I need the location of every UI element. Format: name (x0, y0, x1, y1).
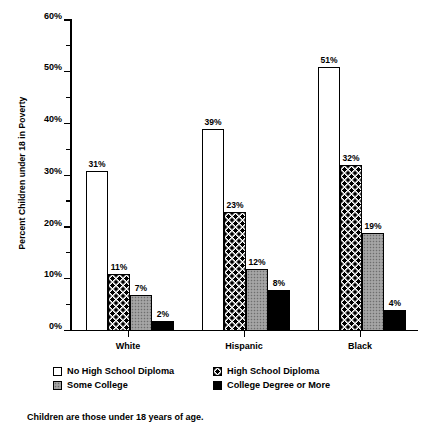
legend-row: No High School Diploma High School Diplo… (53, 364, 413, 378)
legend-item-some-college: Some College (53, 380, 213, 390)
bar (130, 295, 152, 331)
bar (384, 310, 406, 331)
y-axis-minor-tick (66, 304, 70, 305)
x-axis-tick (360, 330, 361, 337)
legend-item-college-degree-or-more: College Degree or More (213, 380, 330, 390)
bar (362, 233, 384, 331)
bar (318, 67, 340, 331)
y-axis-minor-tick (66, 252, 70, 253)
bar-value-label: 12% (248, 257, 265, 267)
chart-legend: No High School Diploma High School Diplo… (53, 364, 413, 392)
x-axis-category-label: Black (348, 341, 372, 351)
bar (86, 171, 108, 331)
bar-value-label: 31% (88, 159, 105, 169)
bar-value-label: 19% (364, 221, 381, 231)
y-axis-tick-label: 20% (44, 218, 62, 228)
x-axis-category-label: White (116, 341, 141, 351)
bar-value-label: 51% (320, 55, 337, 65)
bar (202, 129, 224, 331)
y-axis-title: Percent Children under 18 in Poverty (17, 73, 27, 273)
poverty-bar-chart: Percent Children under 18 in Poverty 0%1… (0, 0, 432, 434)
bar-value-label: 2% (157, 309, 169, 319)
bar (224, 212, 246, 331)
y-axis-tick (64, 123, 70, 124)
legend-swatch-icon (213, 381, 222, 390)
chart-footnote: Children are those under 18 years of age… (27, 412, 204, 422)
bar (340, 165, 362, 331)
y-axis-tick (64, 278, 70, 279)
bar (268, 290, 290, 331)
legend-row: Some College College Degree or More (53, 378, 413, 392)
y-axis-minor-tick (66, 149, 70, 150)
bar (108, 274, 130, 331)
legend-label: College Degree or More (227, 380, 330, 390)
bar-value-label: 39% (204, 117, 221, 127)
y-axis-line (70, 19, 72, 331)
legend-label: No High School Diploma (67, 366, 174, 376)
x-axis-category-label: Hispanic (225, 341, 263, 351)
bar-value-label: 11% (111, 262, 128, 272)
legend-item-no-high-school-diploma: No High School Diploma (53, 366, 213, 376)
y-axis-tick-label: 60% (44, 11, 62, 21)
plot-area: 0%10%20%30%40%50%60%31%11%7%2%White39%23… (70, 19, 418, 331)
bar-value-label: 8% (273, 278, 285, 288)
bar (246, 269, 268, 331)
y-axis-minor-tick (66, 45, 70, 46)
legend-label: High School Diploma (227, 366, 319, 376)
y-axis-tick-label: 30% (44, 166, 62, 176)
x-axis-tick (128, 330, 129, 337)
bar-value-label: 32% (342, 153, 359, 163)
bar-value-label: 4% (389, 298, 401, 308)
legend-swatch-icon (53, 381, 62, 390)
y-axis-tick-label: 10% (44, 269, 62, 279)
y-axis-tick (64, 330, 70, 331)
legend-item-high-school-diploma: High School Diploma (213, 366, 319, 376)
y-axis-tick (64, 71, 70, 72)
bar (152, 321, 174, 331)
y-axis-tick (64, 19, 70, 20)
bar-value-label: 7% (135, 283, 147, 293)
legend-swatch-icon (213, 367, 222, 376)
y-axis-tick-label: 50% (44, 62, 62, 72)
y-axis-tick (64, 175, 70, 176)
bar-value-label: 23% (226, 200, 243, 210)
y-axis-minor-tick (66, 97, 70, 98)
y-axis-tick (64, 226, 70, 227)
y-axis-tick-label: 0% (49, 321, 62, 331)
y-axis-minor-tick (66, 200, 70, 201)
legend-swatch-icon (53, 367, 62, 376)
legend-label: Some College (67, 380, 128, 390)
y-axis-tick-label: 40% (44, 114, 62, 124)
x-axis-tick (244, 330, 245, 337)
